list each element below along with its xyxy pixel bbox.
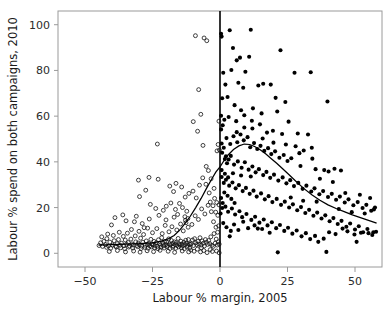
data-point-open	[181, 229, 185, 233]
data-point-filled	[221, 221, 225, 225]
data-point-filled	[366, 231, 370, 235]
data-point-filled	[316, 240, 320, 244]
data-point-filled	[242, 138, 246, 142]
data-point-open	[140, 222, 144, 226]
data-point-filled	[252, 141, 256, 145]
data-point-filled	[237, 209, 241, 213]
data-point-filled	[243, 70, 247, 74]
y-tick-label: 0	[43, 247, 50, 260]
data-point-filled	[348, 222, 352, 226]
data-point-open	[154, 207, 158, 211]
data-point-filled	[241, 189, 245, 193]
chart-container: 020406080100−50−2502550Labour % margin, …	[0, 0, 390, 321]
data-point-filled	[317, 192, 321, 196]
data-point-filled	[357, 224, 361, 228]
data-point-filled	[318, 177, 322, 181]
data-point-filled	[244, 212, 248, 216]
data-point-filled	[251, 106, 255, 110]
data-point-filled	[339, 219, 343, 223]
data-point-filled	[307, 208, 311, 212]
data-point-open	[172, 190, 176, 194]
data-point-filled	[222, 118, 226, 122]
data-point-filled	[271, 129, 275, 133]
data-point-filled	[310, 146, 314, 150]
data-point-open	[161, 208, 165, 212]
data-point-filled	[283, 100, 287, 104]
data-point-open	[117, 238, 121, 242]
data-point-filled	[241, 220, 245, 224]
data-point-filled	[275, 197, 279, 201]
y-tick-label: 40	[36, 156, 50, 169]
data-point-filled	[222, 146, 226, 150]
data-point-filled	[220, 96, 224, 100]
data-point-filled	[227, 184, 231, 188]
data-point-open	[111, 234, 115, 238]
data-point-open	[199, 112, 203, 116]
data-point-filled	[245, 135, 249, 139]
series-0	[97, 34, 221, 255]
data-point-filled	[319, 216, 323, 220]
data-point-filled	[261, 136, 265, 140]
data-point-filled	[226, 95, 230, 99]
data-point-open	[185, 209, 189, 213]
x-tick-label: −25	[141, 275, 164, 288]
data-point-open	[186, 238, 190, 242]
data-point-open	[204, 182, 208, 186]
x-tick-label: 50	[348, 275, 362, 288]
data-point-open	[168, 184, 172, 188]
data-point-filled	[289, 156, 293, 160]
y-tick-label: 100	[29, 19, 50, 32]
data-point-filled	[309, 70, 313, 74]
data-point-filled	[224, 225, 228, 229]
data-point-filled	[315, 211, 319, 215]
data-point-open	[152, 250, 156, 254]
data-point-filled	[257, 167, 261, 171]
data-point-filled	[290, 232, 294, 236]
data-point-open	[138, 250, 142, 254]
data-point-open	[198, 183, 202, 187]
data-point-open	[186, 225, 190, 229]
data-point-filled	[322, 168, 326, 172]
data-point-filled	[266, 146, 270, 150]
data-point-filled	[359, 231, 363, 235]
data-point-open	[137, 229, 141, 233]
data-point-filled	[371, 230, 375, 234]
data-point-filled	[308, 237, 312, 241]
data-point-filled	[230, 180, 234, 184]
data-point-filled	[315, 200, 319, 204]
data-point-open	[207, 191, 211, 195]
data-point-filled	[344, 225, 348, 229]
data-point-filled	[223, 172, 227, 176]
data-point-filled	[311, 214, 315, 218]
data-point-open	[121, 234, 125, 238]
data-point-filled	[278, 223, 282, 227]
y-axis-title: Labour % spend on both campaigns, 2010	[6, 17, 20, 261]
data-point-open	[160, 232, 164, 236]
data-point-filled	[259, 191, 263, 195]
data-point-filled	[276, 250, 280, 254]
data-point-filled	[249, 28, 253, 32]
y-axis: 020406080100	[29, 19, 58, 261]
data-point-filled	[267, 194, 271, 198]
data-point-filled	[220, 142, 224, 146]
data-point-open	[134, 214, 138, 218]
data-point-open	[106, 232, 110, 236]
data-point-open	[139, 236, 143, 240]
data-point-filled	[295, 228, 299, 232]
data-point-open	[132, 220, 136, 224]
data-point-filled	[257, 221, 261, 225]
data-point-open	[180, 185, 184, 189]
data-point-filled	[312, 186, 316, 190]
data-point-filled	[233, 103, 237, 107]
data-point-open	[148, 202, 152, 206]
data-point-filled	[339, 168, 343, 172]
data-point-open	[142, 233, 146, 237]
data-point-filled	[258, 122, 262, 126]
data-point-open	[213, 196, 217, 200]
data-point-open	[211, 204, 215, 208]
data-point-filled	[249, 218, 253, 222]
data-point-filled	[343, 191, 347, 195]
data-point-filled	[221, 123, 225, 127]
scatter-plot: 020406080100−50−2502550Labour % margin, …	[0, 0, 390, 321]
data-point-open	[174, 181, 178, 185]
